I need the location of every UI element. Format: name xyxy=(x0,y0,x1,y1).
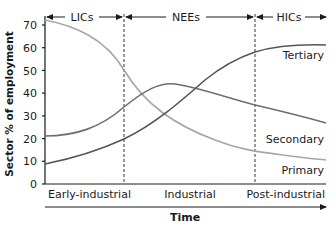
y-tick-0: 0 xyxy=(30,178,37,191)
x-label-early-industrial: Early-industrial xyxy=(48,188,131,201)
x-label-post-industrial: Post-industrial xyxy=(247,188,325,201)
y-tick-10: 10 xyxy=(23,155,37,168)
curve-secondary xyxy=(45,84,326,136)
y-tick-60: 60 xyxy=(23,42,37,55)
stage-label-hics: HICs xyxy=(277,11,302,24)
y-tick-20: 20 xyxy=(23,133,37,146)
y-tick-40: 40 xyxy=(23,87,37,100)
series-label-tertiary: Tertiary xyxy=(282,49,325,62)
x-axis-title: Time xyxy=(170,211,200,224)
stage-label-lics: LICs xyxy=(71,11,94,24)
curve-tertiary xyxy=(45,45,326,164)
y-tick-50: 50 xyxy=(23,65,37,78)
x-label-industrial: Industrial xyxy=(164,188,216,201)
y-axis xyxy=(42,16,45,184)
y-axis-title: Sector % of employment xyxy=(3,31,15,176)
series-label-primary: Primary xyxy=(281,164,324,177)
stage-label-nees: NEEs xyxy=(172,11,200,24)
y-tick-labels: 0 10 20 30 40 50 60 70 xyxy=(23,19,37,191)
series-label-secondary: Secondary xyxy=(266,133,325,146)
y-tick-30: 30 xyxy=(23,110,37,123)
y-tick-70: 70 xyxy=(23,19,37,32)
employment-sector-chart: Sector % of employment 0 10 20 30 40 50 … xyxy=(0,0,336,225)
